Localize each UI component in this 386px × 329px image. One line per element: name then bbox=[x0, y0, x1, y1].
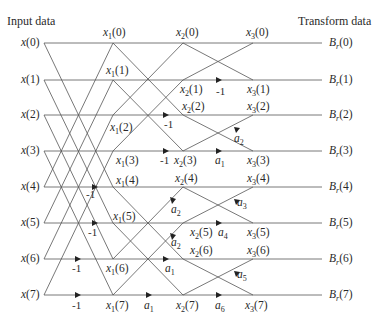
transform-data-title: Transform data bbox=[298, 15, 371, 27]
stage2-node-7: x2(7) bbox=[176, 300, 199, 314]
stage3-node-6: x3(6) bbox=[247, 245, 270, 259]
input-label-5: x(5) bbox=[21, 217, 40, 229]
stage2-node-2: x2(2) bbox=[182, 101, 205, 115]
stage2-mult-7: a1 bbox=[144, 300, 154, 314]
input-label-0: x(0) bbox=[21, 37, 40, 49]
stage2-mult-3: -1 bbox=[160, 155, 169, 166]
stage3-node-3: x3(3) bbox=[247, 155, 270, 169]
stage2-diag-mult-5: a2 bbox=[171, 237, 181, 251]
stage3-node-7: x3(7) bbox=[245, 300, 268, 314]
stage3-node-5: x3(5) bbox=[247, 227, 270, 241]
stage3-diag-mult-6: a5 bbox=[237, 269, 247, 283]
input-label-4: x(4) bbox=[21, 181, 40, 193]
stage1-node-1: x1(1) bbox=[106, 65, 129, 79]
stage2-mult-2: -1 bbox=[164, 119, 173, 130]
stage3-mult-3: a1 bbox=[215, 155, 225, 169]
stage1-mult-4: -1 bbox=[86, 189, 95, 200]
stage3-node-0: x3(0) bbox=[246, 27, 269, 41]
stage3-diag-mult-2: a2 bbox=[234, 133, 244, 147]
stage3-mult-5: a4 bbox=[218, 227, 228, 241]
stage3-mult-7: a6 bbox=[215, 300, 225, 314]
output-label-2: Br(2) bbox=[329, 109, 353, 123]
stage2-diag-mult-4: a2 bbox=[171, 204, 181, 218]
stage3-node-2: x3(2) bbox=[247, 101, 270, 115]
output-label-4: Br(4) bbox=[329, 181, 353, 195]
stage2-node-0: x2(0) bbox=[176, 27, 199, 41]
stage1-node-2: x1(2) bbox=[110, 122, 133, 136]
stage3-node-1: x3(1) bbox=[247, 84, 270, 98]
stage2-node-6: x2(6) bbox=[190, 245, 213, 259]
stage1-node-3: x1(3) bbox=[116, 155, 139, 169]
stage3-diag-mult-4: a3 bbox=[237, 197, 247, 211]
stage1-mult-6: -1 bbox=[72, 263, 81, 274]
stage1-node-7: x1(7) bbox=[106, 300, 129, 314]
stage1-mult-5: -1 bbox=[88, 227, 97, 238]
stage3-node-4: x3(4) bbox=[247, 173, 270, 187]
output-label-6: Br(6) bbox=[329, 253, 353, 267]
output-label-1: Br(1) bbox=[329, 74, 353, 88]
input-label-2: x(2) bbox=[21, 109, 40, 121]
output-label-3: Br(3) bbox=[329, 145, 353, 159]
stage2-node-5: x2(5) bbox=[190, 227, 213, 241]
input-label-6: x(6) bbox=[21, 253, 40, 265]
stage1-mult-7: -1 bbox=[72, 300, 81, 311]
stage2-node-3: x2(3) bbox=[174, 155, 197, 169]
output-label-0: Br(0) bbox=[329, 37, 353, 51]
stage1-node-5: x1(5) bbox=[113, 211, 136, 225]
stage2-mult-6: a1 bbox=[165, 263, 175, 277]
input-label-7: x(7) bbox=[21, 289, 40, 301]
output-label-7: Br(7) bbox=[329, 289, 353, 303]
stage1-node-6: x1(6) bbox=[106, 263, 129, 277]
input-data-title: Input data bbox=[7, 15, 55, 27]
stage2-node-4: x2(4) bbox=[175, 173, 198, 187]
input-label-3: x(3) bbox=[21, 145, 40, 157]
output-label-5: Br(5) bbox=[329, 217, 353, 231]
stage1-node-0: x1(0) bbox=[103, 27, 126, 41]
input-label-1: x(1) bbox=[21, 74, 40, 86]
stage3-mult-1: -1 bbox=[216, 86, 225, 97]
arrow-icons bbox=[75, 77, 240, 298]
stage2-node-1: x2(1) bbox=[180, 84, 203, 98]
stage1-node-4: x1(4) bbox=[116, 175, 139, 189]
